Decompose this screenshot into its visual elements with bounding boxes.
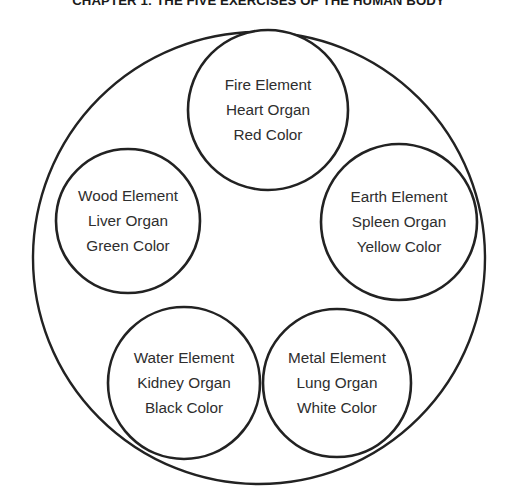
page-canvas: CHAPTER 1: THE FIVE EXERCISES OF THE HUM… [0, 0, 517, 495]
earth-circle[interactable] [321, 144, 477, 300]
five-elements-diagram [0, 0, 517, 495]
metal-circle[interactable] [263, 309, 411, 457]
water-circle[interactable] [108, 307, 260, 459]
fire-circle[interactable] [188, 30, 348, 190]
wood-circle[interactable] [56, 149, 200, 293]
